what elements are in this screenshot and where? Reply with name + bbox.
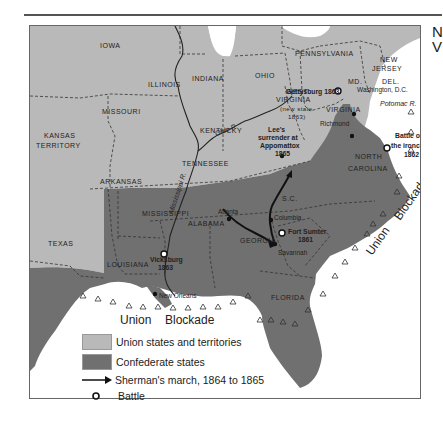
blockade-label-blockade-gulf: Blockade [165,313,215,327]
battle-label-vicksburg-2: 1863 [158,264,173,271]
legend-label: Union states and territories [116,336,241,348]
state-label-ohio: OHIO [255,72,275,79]
battle-label-fort-sumter-1: Fort Sumter [288,228,327,235]
state-label-delaware: DEL. [382,78,400,85]
state-label-kansas-2: TERRITORY [36,142,81,149]
side-text-line: V [432,39,443,54]
city-label-savannah: Savannah [278,249,308,256]
state-label-pennsylvania: PENNSYLVANIA [295,50,354,57]
state-label-kansas-1: KANSAS [44,132,75,139]
battle-icon [90,391,104,401]
arrow-icon [82,375,112,385]
state-label-new-jersey-1: NEW [380,56,398,63]
battle-icon-fort-sumter [279,230,285,236]
state-label-maryland: MD. [348,78,362,85]
state-label-west-virginia-2: VIRGINIA [276,96,311,103]
battle-label-ironclads-1: Battle of [395,132,420,139]
cut-off-side-text: N V [432,24,443,54]
city-label-washington: Washington, D.C. [357,86,408,94]
battle-label-gettysburg: Gettysburg 1863 [286,88,339,96]
top-rule [24,14,442,16]
legend-item-battle: Battle [82,390,145,402]
blockade-label-union-gulf: Union [120,313,151,327]
legend-label: Battle [118,390,145,402]
state-label-texas: TEXAS [48,240,73,247]
battle-label-appomattox-4: 1865 [275,150,290,157]
battle-label-ironclads-3: 1862 [404,151,419,158]
legend-item-union: Union states and territories [82,334,241,350]
legend-label: Sherman's march, 1864 to 1865 [115,374,264,386]
state-label-west-virginia-4: 1863) [288,114,306,120]
state-label-alabama: ALABAMA [188,220,225,227]
city-label-richmond: Richmond [320,120,350,127]
state-label-florida: FLORIDA [271,294,305,301]
state-label-new-jersey-2: JERSEY [372,65,402,72]
state-label-georgia: GEORGIA [240,237,276,244]
side-text-line: N [432,24,443,39]
battle-label-appomattox-1: Lee's [268,126,285,133]
state-label-south-carolina: S.C. [282,195,298,202]
battle-icon-ironclads [384,145,390,151]
city-label-columbia: Columbia [274,214,302,221]
river-label-potomac: Potomac R. [380,100,417,107]
state-label-indiana: INDIANA [192,75,224,82]
battle-label-ironclads-2: the ironclads [391,142,420,149]
battle-label-appomattox-3: Appomattox [260,142,300,150]
battle-label-vicksburg-1: Vicksburg [150,256,183,264]
state-label-louisiana: LOUISIANA [107,261,149,268]
battle-label-appomattox-2: surrender at [258,134,298,141]
state-label-west-virginia-3: (new state [280,106,313,112]
legend-item-sherman: Sherman's march, 1864 to 1865 [82,374,264,386]
state-label-mississippi: MISSISSIPPI [142,210,189,217]
battle-label-fort-sumter-2: 1861 [298,236,313,243]
legend-item-confederate: Confederate states [82,354,205,370]
state-label-illinois: ILLINOIS [148,81,181,88]
union-swatch [82,334,112,350]
state-label-north-carolina-1: NORTH [355,153,382,160]
city-label-new-orleans: New Orleans [159,292,197,299]
state-label-tennessee: TENNESSEE [182,160,229,167]
state-label-missouri: MISSOURI [102,108,141,115]
state-label-north-carolina-2: CAROLINA [348,165,388,172]
legend-label: Confederate states [116,356,205,368]
confederate-swatch [82,354,112,370]
state-label-virginia: VIRGINIA [326,106,361,113]
state-label-arkansas: ARKANSAS [100,178,142,185]
city-label-atlanta: Atlanta [218,208,239,215]
state-label-iowa: IOWA [100,42,120,49]
